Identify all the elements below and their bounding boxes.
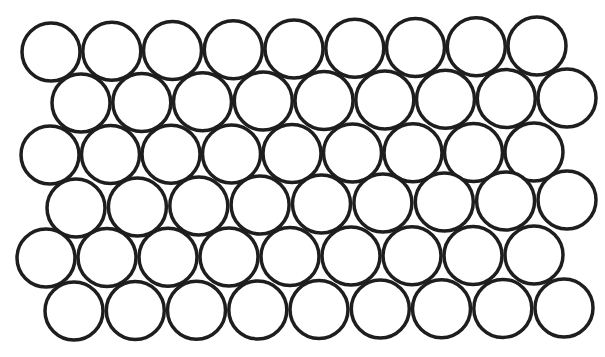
circle [474, 279, 532, 337]
circle [295, 72, 353, 130]
circle [234, 72, 292, 130]
circle [384, 124, 442, 182]
circle [383, 227, 441, 285]
circle [535, 279, 593, 337]
circle [538, 69, 596, 127]
circle [170, 177, 228, 235]
circle [505, 226, 563, 284]
circle-row-6 [45, 279, 593, 340]
circle [174, 73, 232, 131]
circle [200, 228, 258, 286]
circle-row-3 [21, 123, 563, 184]
circle [45, 282, 103, 340]
circle [444, 226, 502, 284]
circle [106, 282, 164, 340]
circle [290, 281, 348, 339]
circle [22, 23, 80, 81]
circle-packing-canvas [0, 0, 605, 357]
circle [144, 22, 202, 80]
circle [231, 176, 289, 234]
packing-diagram [0, 0, 605, 357]
circle [139, 228, 197, 286]
circle [447, 18, 505, 76]
circle [417, 70, 475, 128]
circle [508, 17, 566, 75]
circle [47, 179, 105, 237]
circle-row-5 [17, 226, 563, 287]
circle [351, 280, 409, 338]
circle [168, 281, 226, 339]
circle-row-4 [47, 171, 596, 237]
circle [52, 74, 110, 132]
circle [78, 229, 136, 287]
circle [263, 125, 321, 183]
circle [356, 71, 414, 129]
circle [415, 173, 473, 231]
circle-row-2 [52, 69, 596, 132]
circle [265, 20, 323, 78]
circle [324, 124, 382, 182]
circle [83, 22, 141, 80]
circle [82, 126, 140, 184]
circle [354, 174, 412, 232]
circle [21, 126, 79, 184]
circle [477, 70, 535, 128]
circle-row-1 [22, 17, 566, 81]
circle [113, 73, 171, 131]
circle [387, 19, 445, 77]
circle [326, 19, 384, 77]
circle [108, 178, 166, 236]
circle [261, 228, 319, 286]
circle [413, 280, 471, 338]
circle [17, 229, 75, 287]
circle [538, 171, 596, 229]
circle [293, 175, 351, 233]
circle [477, 172, 535, 230]
circle [322, 227, 380, 285]
circle [203, 125, 261, 183]
circle [229, 281, 287, 339]
circle [142, 125, 200, 183]
circle [204, 21, 262, 79]
